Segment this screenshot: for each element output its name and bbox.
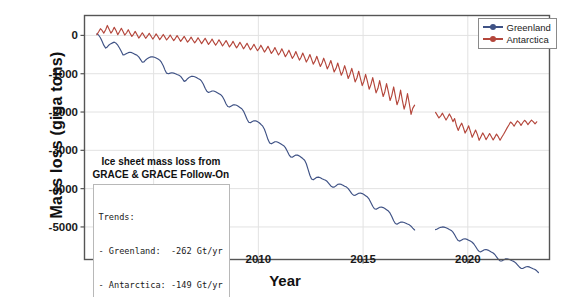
legend-item-antarctica[interactable]: Antarctica	[483, 34, 551, 45]
annotation-block: Ice sheet mass loss from GRACE & GRACE F…	[93, 156, 230, 297]
x-axis-title: Year	[0, 272, 570, 289]
trends-header: Trends:	[99, 212, 223, 223]
annotation-title-line2: GRACE & GRACE Follow-On	[93, 169, 230, 182]
x-tick-label: 2020	[455, 253, 481, 265]
legend-label-antarctica: Antarctica	[507, 34, 549, 45]
annotation-title-line1: Ice sheet mass loss from	[93, 156, 230, 169]
legend[interactable]: Greenland Antarctica	[478, 18, 557, 49]
legend-label-greenland: Greenland	[507, 22, 551, 33]
x-tick-label: 2010	[246, 253, 272, 265]
x-tick-label: 2015	[350, 253, 376, 265]
figure: 0-1000-2000-3000-4000-5000 2005201020152…	[0, 0, 570, 297]
trends-box: Trends: - Greenland: -262 Gt/yr - Antarc…	[93, 184, 230, 297]
legend-swatch-greenland	[483, 23, 503, 31]
legend-swatch-antarctica	[483, 35, 503, 43]
legend-item-greenland[interactable]: Greenland	[483, 22, 551, 33]
trend-greenland: - Greenland: -262 Gt/yr	[99, 246, 223, 257]
y-axis-title: Mass loss (giga tons)	[48, 10, 66, 260]
trend-antarctica: - Antarctica: -149 Gt/yr	[99, 280, 223, 291]
